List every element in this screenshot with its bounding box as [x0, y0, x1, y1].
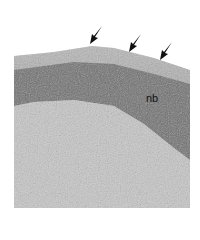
arrow-icon-1	[88, 25, 104, 45]
arrow-icon-3	[158, 41, 174, 61]
nb-label: nb	[146, 92, 158, 104]
micrograph-image	[14, 40, 190, 208]
arrow-icon-2	[127, 33, 143, 53]
